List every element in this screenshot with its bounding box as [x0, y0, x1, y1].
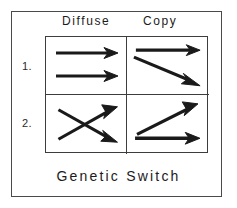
- row-label-2: 2.: [22, 117, 32, 129]
- column-header-diffuse: Diffuse: [62, 14, 110, 28]
- row-label-1: 1.: [22, 60, 32, 72]
- figure-caption: Genetic Switch: [0, 168, 237, 184]
- genetic-switch-figure: Diffuse Copy 1. 2.: [0, 0, 237, 208]
- column-header-copy: Copy: [143, 14, 177, 28]
- cell-row1-diffuse-graphic: [46, 37, 126, 94]
- arrow-shaft-diagonal-up: [58, 112, 107, 140]
- arrow-shaft-diagonal-down: [134, 57, 188, 80]
- cell-row2-copy: [126, 94, 209, 154]
- cell-row2-diffuse: [46, 94, 126, 154]
- cell-row1-diffuse: [46, 37, 126, 94]
- cell-row1-copy: [126, 37, 209, 94]
- cell-row2-copy-graphic: [127, 95, 209, 154]
- arrow-head-up-right: [182, 102, 198, 116]
- cell-row1-copy-graphic: [127, 37, 209, 94]
- cell-row2-diffuse-graphic: [46, 95, 126, 154]
- arrow-shaft-diagonal-down: [58, 110, 107, 138]
- matrix-grid: [45, 36, 208, 153]
- arrow-head-up-right: [102, 105, 118, 119]
- arrow-shaft-diagonal-up: [137, 109, 188, 135]
